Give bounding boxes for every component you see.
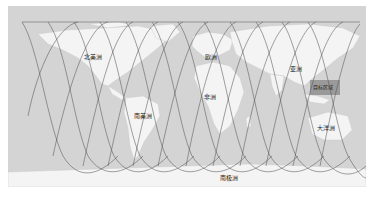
label-oceania: 大洋洲	[317, 124, 335, 131]
label-europe: 欧洲	[205, 53, 217, 60]
label-highlight-region: 目标区域	[313, 84, 333, 91]
label-asia: 亚洲	[290, 65, 302, 72]
map-graphics	[8, 6, 366, 187]
label-antarctica: 南极洲	[220, 174, 238, 181]
label-north-america: 北美洲	[84, 53, 102, 60]
label-south-america: 南美洲	[134, 112, 152, 119]
label-africa: 非洲	[204, 93, 216, 100]
world-map: 北美洲 欧洲 亚洲 非洲 南美洲 大洋洲 南极洲 目标区域	[8, 6, 366, 187]
